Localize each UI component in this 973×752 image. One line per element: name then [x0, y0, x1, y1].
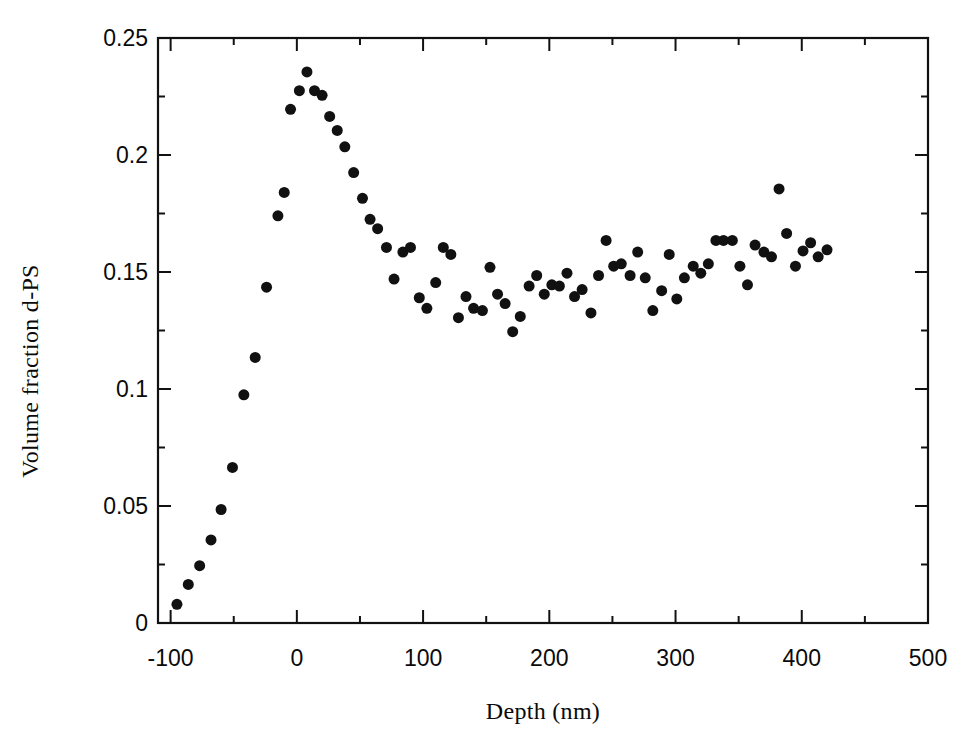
data-point [430, 277, 441, 288]
data-point [554, 281, 565, 292]
plot-border [158, 38, 928, 623]
data-point [183, 579, 194, 590]
y-tick-label: 0.25 [48, 25, 148, 52]
data-point [285, 104, 296, 115]
data-point [585, 307, 596, 318]
data-point [593, 270, 604, 281]
data-point [238, 389, 249, 400]
data-point [381, 242, 392, 253]
data-point [625, 270, 636, 281]
data-point [301, 66, 312, 77]
data-point [695, 268, 706, 279]
data-point [453, 312, 464, 323]
x-tick-label: 300 [616, 645, 736, 672]
data-point [647, 305, 658, 316]
x-tick-label: 100 [363, 645, 483, 672]
y-tick-label: 0.1 [48, 376, 148, 403]
axis-frame [158, 38, 928, 623]
data-point [640, 272, 651, 283]
data-point [324, 111, 335, 122]
data-point [445, 249, 456, 260]
y-tick-label: 0.15 [48, 259, 148, 286]
data-point [766, 251, 777, 262]
data-point [492, 289, 503, 300]
data-point [750, 240, 761, 251]
data-point [664, 249, 675, 260]
data-point [531, 270, 542, 281]
data-point [261, 282, 272, 293]
data-point [507, 326, 518, 337]
data-point [671, 293, 682, 304]
data-point [539, 289, 550, 300]
data-point [790, 261, 801, 272]
data-point [484, 262, 495, 273]
data-point [372, 223, 383, 234]
data-point [742, 279, 753, 290]
data-point [357, 193, 368, 204]
data-point [250, 352, 261, 363]
data-point [294, 85, 305, 96]
x-axis-title: Depth (nm) [158, 698, 928, 725]
data-point [679, 272, 690, 283]
data-point [348, 167, 359, 178]
data-point [279, 187, 290, 198]
data-point [601, 235, 612, 246]
data-point [632, 247, 643, 258]
x-tick-label: 500 [868, 645, 973, 672]
data-point [171, 599, 182, 610]
y-tick-label: 0.2 [48, 142, 148, 169]
figure-scatter-plot: Volume fraction d-PS Depth (nm) 00.050.1… [0, 0, 973, 752]
data-point [477, 305, 488, 316]
data-point [365, 214, 376, 225]
x-tick-label: 200 [489, 645, 609, 672]
x-tick-label: -100 [111, 645, 231, 672]
x-tick-label: 0 [237, 645, 357, 672]
data-point [727, 235, 738, 246]
data-point [798, 245, 809, 256]
data-point [805, 237, 816, 248]
y-tick-label: 0 [48, 610, 148, 637]
data-point [774, 183, 785, 194]
data-point [561, 268, 572, 279]
data-point [500, 298, 511, 309]
data-point [813, 251, 824, 262]
data-point [656, 285, 667, 296]
data-point [339, 141, 350, 152]
data-point [822, 244, 833, 255]
x-tick-label: 400 [742, 645, 862, 672]
data-point [317, 90, 328, 101]
data-point-markers [171, 66, 832, 609]
data-point [734, 261, 745, 272]
y-tick-label: 0.05 [48, 493, 148, 520]
data-point [405, 242, 416, 253]
data-point [272, 210, 283, 221]
data-point [515, 311, 526, 322]
x-axis-tick-labels: -1000100200300400500 [0, 645, 973, 685]
data-point [703, 258, 714, 269]
data-point [524, 281, 535, 292]
data-point [414, 292, 425, 303]
data-point [227, 462, 238, 473]
data-point [206, 534, 217, 545]
data-point [421, 303, 432, 314]
data-point [616, 258, 627, 269]
data-point [216, 504, 227, 515]
axis-tick-marks [158, 38, 928, 623]
data-point [781, 228, 792, 239]
data-point [332, 125, 343, 136]
y-axis-tick-labels: 00.050.10.150.20.25 [0, 0, 148, 752]
data-point [461, 291, 472, 302]
data-point [577, 284, 588, 295]
data-point [194, 560, 205, 571]
data-point [389, 274, 400, 285]
